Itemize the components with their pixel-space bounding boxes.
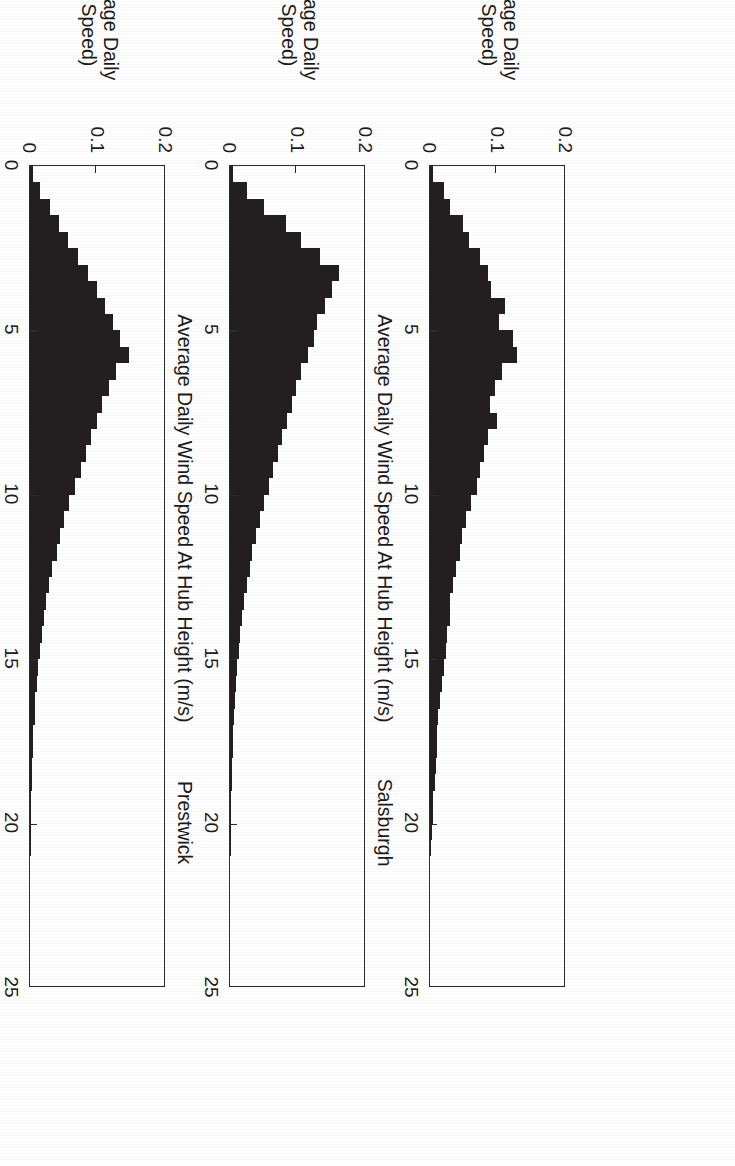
x-axis-tick-label: 10 [0, 483, 22, 504]
histogram-bar [30, 495, 69, 511]
y-axis-label-leuchars: P(Average DailyWind Speed) [77, 0, 121, 110]
histogram-bar [30, 166, 33, 182]
histogram-bar [30, 248, 78, 264]
histogram-bar [30, 807, 31, 823]
histogram-bar [30, 511, 64, 527]
histogram-bar [30, 725, 33, 741]
x-axis-tick-label: 20 [0, 812, 22, 833]
histogram-bar [30, 544, 57, 560]
histogram-bar [30, 692, 35, 708]
histogram-bar [30, 561, 52, 577]
x-axis-tick-label: 0 [0, 160, 22, 171]
histogram-bar [30, 298, 105, 314]
y-axis-label-line2: Wind Speed) [77, 0, 99, 110]
histogram-bar [30, 413, 97, 429]
y-axis-tick-label: 0.1 [86, 127, 108, 153]
histogram-bar [30, 626, 42, 642]
y-axis-tick-label: 0 [18, 142, 40, 153]
y-axis-label-line1: P(Average Daily [99, 0, 121, 110]
wind-speed-histogram-figure: 051015202500.10.2P(Average DailyWind Spe… [0, 0, 735, 1166]
x-axis-tick-label: 25 [0, 976, 22, 997]
histogram-bar [30, 347, 129, 363]
y-axis-tick [95, 166, 96, 173]
histogram-bar [30, 593, 46, 609]
histogram-bar [30, 741, 33, 757]
y-axis-tick-label: 0.2 [154, 127, 176, 153]
figure-page: 051015202500.10.2P(Average DailyWind Spe… [0, 0, 735, 1166]
histogram-bar [30, 758, 32, 774]
x-axis-tick-label: 15 [0, 648, 22, 669]
histogram-bar [30, 429, 91, 445]
histogram-bar [30, 199, 50, 215]
histogram-bar [30, 676, 37, 692]
histogram-bar [30, 824, 31, 840]
x-axis-tick [30, 659, 37, 660]
histogram-bar [30, 232, 68, 248]
histogram-bar [30, 363, 116, 379]
plot-area-leuchars [29, 165, 165, 987]
histogram-bar [30, 445, 86, 461]
histogram-bar [30, 709, 35, 725]
histogram-bar [30, 643, 40, 659]
histogram-bar [30, 330, 120, 346]
histogram-bar [30, 610, 44, 626]
histogram-bar [30, 380, 109, 396]
histogram-bar [30, 396, 102, 412]
histogram-bar [30, 528, 60, 544]
histogram-bar [30, 577, 49, 593]
histogram-bar [30, 478, 75, 494]
histogram-bar [30, 281, 97, 297]
histogram-bar [30, 791, 31, 807]
x-axis-tick [30, 330, 37, 331]
histogram-bar [30, 182, 40, 198]
x-axis-tick [30, 495, 37, 496]
x-axis-tick-label: 5 [0, 324, 22, 335]
panel-leuchars: 051015202500.10.2P(Average DailyWind Spe… [0, 0, 735, 1166]
x-axis-tick [30, 824, 37, 825]
histogram-bar [30, 215, 59, 231]
histogram-bar [30, 462, 81, 478]
histogram-bar [30, 659, 38, 675]
histogram-bar [30, 314, 113, 330]
histogram-bar [30, 774, 32, 790]
histogram-bar [30, 840, 31, 856]
rotated-figure-canvas: 051015202500.10.2P(Average DailyWind Spe… [0, 0, 735, 1166]
histogram-bar [30, 265, 88, 281]
